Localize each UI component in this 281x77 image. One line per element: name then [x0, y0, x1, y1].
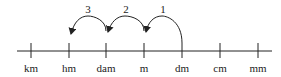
- step-label-3: 3: [85, 3, 91, 15]
- step-label-2: 2: [123, 3, 129, 15]
- unit-labels: km hm dam m dm cm mm: [24, 62, 267, 74]
- unit-label-dam: dam: [97, 62, 116, 74]
- arrow-step-3: [71, 16, 106, 34]
- unit-label-cm: cm: [213, 62, 227, 74]
- step-arrows: [71, 16, 182, 43]
- arrow-step-1: [146, 16, 182, 43]
- unit-label-dm: dm: [175, 62, 190, 74]
- unit-scale-diagram: km hm dam m dm cm mm 1 2 3: [0, 0, 281, 77]
- arrow-step-2: [108, 16, 144, 32]
- unit-label-m: m: [140, 62, 149, 74]
- step-labels: 1 2 3: [85, 3, 166, 15]
- unit-label-mm: mm: [249, 62, 267, 74]
- step-label-1: 1: [160, 3, 166, 15]
- unit-label-km: km: [24, 62, 39, 74]
- unit-label-hm: hm: [62, 62, 77, 74]
